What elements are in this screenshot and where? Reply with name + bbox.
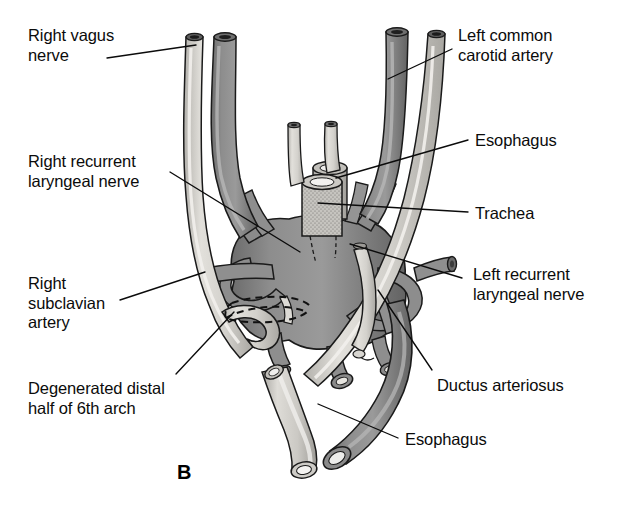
label-esophagus-upper: Esophagus [475, 131, 557, 151]
label-right-recurrent-laryngeal-nerve: Right recurrentlaryngeal nerve [28, 152, 139, 191]
panel-letter-b: B [177, 461, 191, 484]
label-left-recurrent-laryngeal-nerve: Left recurrentlaryngeal nerve [473, 265, 584, 304]
label-right-vagus-nerve: Right vagusnerve [28, 26, 114, 65]
label-trachea: Trachea [475, 204, 534, 224]
label-degenerated-distal-half-of-6th-arch: Degenerated distalhalf of 6th arch [28, 379, 165, 418]
anatomical-figure: Right vagusnerve Right recurrentlaryngea… [0, 0, 623, 507]
aortic-arch-illustration [0, 0, 623, 507]
label-esophagus-lower: Esophagus [405, 430, 487, 450]
label-right-subclavian-artery: Rightsubclavianartery [28, 274, 105, 333]
label-ductus-arteriosus: Ductus arteriosus [437, 376, 564, 396]
label-left-common-carotid-artery: Left commoncarotid artery [458, 26, 553, 65]
